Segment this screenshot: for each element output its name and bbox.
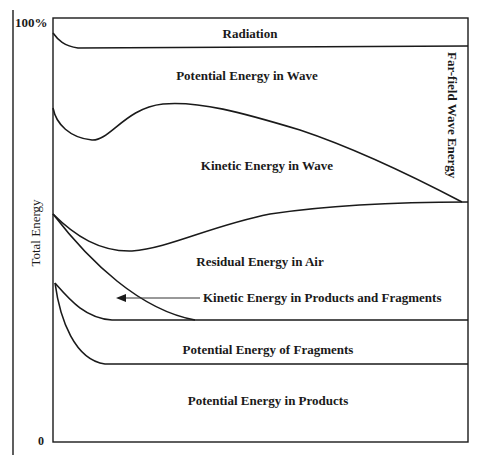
- arrow-head-icon: [116, 294, 126, 302]
- region-label-pe-fragments: Potential Energy of Fragments: [183, 342, 354, 357]
- wave-pe-ke-boundary-curve: [53, 104, 462, 202]
- region-label-pe-wave: Potential Energy in Wave: [176, 68, 318, 83]
- region-label-radiation: Radiation: [223, 26, 279, 41]
- far-field-wave-energy-label: Far-field Wave Energy: [445, 52, 460, 179]
- bottom-tick-label: 0: [38, 434, 44, 448]
- residual-air-boundary-curve: [53, 202, 468, 251]
- energy-partition-diagram: 100% 0 Total Energy Radiation Potential …: [0, 0, 480, 461]
- y-axis-label: Total Energy: [28, 199, 43, 267]
- region-label-pe-products: Potential Energy in Products: [188, 393, 348, 408]
- region-label-ke-wave: Kinetic Energy in Wave: [201, 158, 334, 173]
- region-label-ke-products-fragments: Kinetic Energy in Products and Fragments: [203, 290, 441, 305]
- region-label-residual-air: Residual Energy in Air: [196, 254, 324, 269]
- top-tick-label: 100%: [15, 15, 48, 30]
